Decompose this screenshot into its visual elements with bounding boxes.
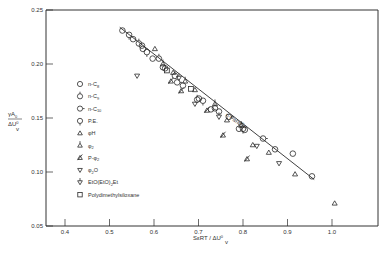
x-tick-label: 0.6 (150, 229, 159, 235)
x-axis-label-sub: v (225, 239, 228, 245)
legend-label: φ2 (88, 143, 95, 151)
x-tick-label: 0.8 (239, 229, 248, 235)
legend-item: n-C9 (77, 92, 99, 101)
y-tick-label: 0.10 (31, 169, 43, 175)
scatter-chart: 0.40.50.60.70.80.91.00.050.100.150.200.2… (0, 0, 388, 253)
legend: n-C8n-C9n-C10P.E.φHφ2P-φ2φ2OEtO(EtO)2EtP… (77, 81, 139, 198)
y-tick-label: 0.20 (31, 61, 43, 67)
legend-label: n-C10 (88, 106, 102, 114)
legend-item: n-C8 (77, 81, 99, 89)
series-eto-eto-2et (176, 74, 221, 120)
legend-label: P.E. (88, 118, 98, 124)
y-tick-label: 0.25 (31, 7, 43, 13)
legend-label: φH (88, 130, 96, 136)
legend-label: Polydimethylsiloxane (88, 192, 139, 198)
x-tick-label: 0.5 (105, 229, 114, 235)
y-axis-label-denominator-sub: v (16, 126, 19, 132)
legend-label: P-φ2 (88, 155, 100, 163)
legend-item: n-C10 (77, 106, 102, 114)
legend-item: φ2 (78, 141, 95, 150)
x-tick-label: 0.4 (61, 229, 70, 235)
x-tick-label: 1.0 (328, 229, 337, 235)
legend-item: Polydimethylsiloxane (78, 192, 140, 198)
legend-label: φ2O (88, 167, 99, 175)
legend-item: P.E. (77, 118, 98, 126)
y-tick-label: 0.05 (31, 223, 43, 229)
y-tick-label: 0.15 (31, 115, 43, 121)
legend-label: n-C8 (88, 81, 100, 89)
x-tick-label: 0.9 (283, 229, 292, 235)
legend-item: EtO(EtO)2Et (78, 178, 119, 187)
legend-item: P-φ2 (78, 154, 100, 162)
series--2o (135, 74, 282, 166)
x-axis-label: SεRT / ΔU0 (193, 234, 224, 242)
legend-item: φH (78, 130, 96, 136)
y-axis-label-numerator: γA0 (8, 111, 18, 119)
legend-label: EtO(EtO)2Et (88, 179, 119, 187)
legend-label: n-C9 (88, 93, 100, 101)
legend-item: φ2O (78, 167, 99, 175)
series-polydimethylsiloxane (165, 68, 194, 91)
